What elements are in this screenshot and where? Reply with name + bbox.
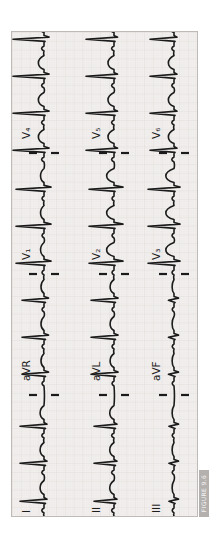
lead-label-V₂: V₂ — [90, 249, 102, 260]
lead-label-aVR: aVR — [20, 360, 32, 381]
ecg-figure: IaVRV₁V₄IIaVLV₂V₅IIIaVFV₃V₆ — [12, 32, 197, 516]
page: IaVRV₁V₄IIaVLV₂V₅IIIaVFV₃V₆ FIGURE 9.6 — [0, 0, 209, 542]
figure-tag: FIGURE 9.6 — [199, 470, 209, 517]
lead-label-V₄: V₄ — [20, 128, 32, 139]
lead-label-V₁: V₁ — [20, 249, 32, 260]
ecg-panel: IaVRV₁V₄IIaVLV₂V₅IIIaVFV₃V₆ — [11, 31, 198, 517]
lead-label-V₃: V₃ — [150, 249, 162, 260]
lead-label-I: I — [20, 510, 32, 513]
lead-label-aVL: aVL — [90, 361, 102, 381]
lead-label-V₅: V₅ — [90, 128, 102, 139]
lead-label-II: II — [90, 507, 102, 513]
lead-label-III: III — [150, 504, 162, 513]
lead-label-V₆: V₆ — [150, 128, 162, 139]
figure-tag-label: FIGURE 9.6 — [199, 470, 209, 517]
lead-label-aVF: aVF — [150, 361, 162, 381]
